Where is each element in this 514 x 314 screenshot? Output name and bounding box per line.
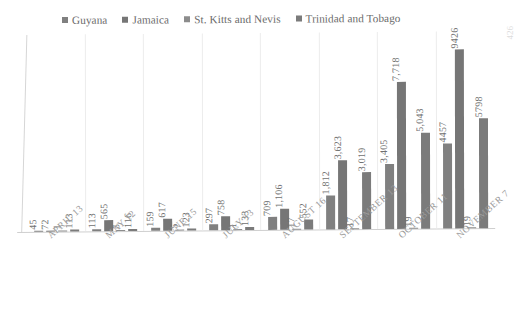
bar-slot: 758 xyxy=(221,33,230,230)
x-axis-tick-labels: APRIL 13MAY 12JUNE 15JULY 13AUGUST 16SEP… xyxy=(17,232,495,312)
bar-slot: 17 xyxy=(292,33,301,230)
legend-item-trinidad-and-tobago: Trinidad and Tobago xyxy=(296,12,401,25)
bar-slot: 5,043 xyxy=(421,32,430,229)
bar-slot: 133 xyxy=(245,33,254,230)
bar-slot: 45 xyxy=(34,35,43,232)
bar-value-label: 9426 xyxy=(449,27,460,48)
bar-value-label: 4457 xyxy=(437,122,448,143)
bar-value-label: 159 xyxy=(144,211,155,227)
page-number: 426 xyxy=(504,26,514,40)
bar-slot: 565 xyxy=(104,34,113,231)
bar-slot: 5798 xyxy=(479,31,488,228)
bar-value-label: 565 xyxy=(98,204,109,220)
bar-slot: 113 xyxy=(92,34,101,231)
bar-groups: 4572111311356551161596175123297758113370… xyxy=(27,31,495,232)
bar-value-label: 7,718 xyxy=(390,58,401,82)
legend-item-label: Trinidad and Tobago xyxy=(306,12,401,25)
bar-value-label: 1,812 xyxy=(320,170,331,194)
bar-slot: 5 xyxy=(116,34,125,231)
bar-group: 2977581133 xyxy=(202,33,261,230)
bar-value-label: 5,043 xyxy=(414,108,425,132)
bar[interactable]: 7,718 xyxy=(397,82,406,229)
square-marker-icon xyxy=(296,16,302,22)
legend-item-guyana: Guyana xyxy=(62,14,107,26)
legend-item-label: St. Kitts and Nevis xyxy=(194,13,281,26)
bar-value-label: 297 xyxy=(203,208,214,224)
bar-slot: 5 xyxy=(175,34,184,231)
bar[interactable]: 133 xyxy=(245,227,254,230)
bar-slot: 3,019 xyxy=(362,32,371,229)
bar-slot: 1 xyxy=(233,33,242,230)
bar-slot: 552 xyxy=(304,33,313,230)
bar-slot: 7,718 xyxy=(397,32,406,229)
bar[interactable]: 116 xyxy=(128,229,137,231)
bar-group: 7091,10617552 xyxy=(261,32,320,229)
bar-slot: 116 xyxy=(128,34,137,231)
bar-slot: 19 xyxy=(467,31,476,228)
bar-slot: 1 xyxy=(58,34,67,231)
bar-group: 1135655116 xyxy=(85,34,144,231)
bar-value-label: 5798 xyxy=(473,96,484,117)
bar-slot: 9426 xyxy=(455,31,464,228)
bar[interactable]: 4457 xyxy=(443,144,452,229)
legend-item-label: Jamaica xyxy=(132,13,169,25)
bar-value-label: 3,405 xyxy=(378,140,389,164)
bar-value-label: 758 xyxy=(215,199,226,215)
bar-slot: 3,623 xyxy=(338,32,347,229)
bar-slot: 617 xyxy=(163,34,172,231)
bar[interactable]: 709 xyxy=(268,216,277,230)
plot-area: 4572111311356551161596175123297758113370… xyxy=(17,31,495,233)
bar-slot: 1,106 xyxy=(280,33,289,230)
bar[interactable]: 123 xyxy=(187,228,196,230)
bar[interactable]: 9426 xyxy=(455,49,464,228)
chart-legend: Guyana Jamaica St. Kitts and Nevis Trini… xyxy=(62,12,401,26)
bar-slot: 72 xyxy=(46,35,55,232)
bar[interactable]: 113 xyxy=(92,229,101,231)
bar-value-label: 45 xyxy=(27,219,38,229)
bar-slot: 123 xyxy=(187,33,196,230)
bar[interactable]: 159 xyxy=(151,228,160,231)
bar-value-label: 1,106 xyxy=(273,184,284,208)
square-marker-icon xyxy=(62,17,68,23)
bar-value-label: 3,623 xyxy=(332,136,343,160)
bar-value-label: 617 xyxy=(156,202,167,218)
bar[interactable]: 1,812 xyxy=(326,195,335,229)
bar-value-label: 709 xyxy=(261,200,272,216)
legend-item-jamaica: Jamaica xyxy=(122,13,169,25)
bar-value-label: 113 xyxy=(86,213,97,228)
square-marker-icon xyxy=(122,17,128,23)
bar-slot: 17 xyxy=(350,32,359,229)
legend-item-label: Guyana xyxy=(72,14,107,26)
bar-slot: 1,812 xyxy=(326,32,335,229)
bar-group: 1,8123,623173,019 xyxy=(319,32,378,229)
square-marker-icon xyxy=(184,16,190,22)
bar-value-label: 3,019 xyxy=(356,147,367,171)
bar-group: 1596175123 xyxy=(144,33,203,230)
legend-item-st-kitts-and-nevis: St. Kitts and Nevis xyxy=(184,13,281,26)
bar[interactable]: 297 xyxy=(209,225,218,231)
